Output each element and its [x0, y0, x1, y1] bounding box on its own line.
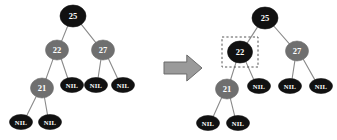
node-label: NIL: [117, 82, 130, 89]
node-label: 27: [99, 45, 108, 55]
tree-edge: [247, 26, 258, 43]
tree-node-nil: NIL: [197, 116, 220, 131]
node-label: 21: [223, 84, 232, 94]
tree-node-21: 21: [31, 78, 54, 98]
tree-edge: [292, 60, 295, 79]
tree-node-nil: NIL: [85, 78, 108, 93]
tree-edge: [230, 98, 234, 116]
tree-edge: [61, 59, 68, 79]
tree-node-25: 25: [60, 5, 86, 27]
tree-node-nil: NIL: [39, 115, 62, 130]
tree-node-22: 22: [228, 41, 253, 63]
tree-edge: [46, 59, 53, 79]
tree-edge: [231, 62, 237, 80]
tree-node-nil: NIL: [248, 79, 271, 94]
node-label: 22: [236, 47, 245, 57]
node-label: 22: [53, 45, 62, 55]
tree-edge: [213, 97, 222, 116]
tree-node-nil: NIL: [10, 115, 33, 130]
transform-arrow: [164, 55, 202, 81]
node-label: 27: [293, 46, 302, 56]
tree-node-nil: NIL: [279, 79, 302, 94]
tree-node-25: 25: [252, 7, 278, 29]
tree-node-21: 21: [216, 79, 239, 99]
tree-node-22: 22: [46, 40, 69, 60]
node-label: NIL: [232, 120, 245, 127]
node-label: NIL: [15, 119, 28, 126]
tree-node-nil: NIL: [310, 79, 333, 94]
node-label: 25: [69, 11, 78, 21]
tree-edge: [44, 97, 47, 115]
left-tree-edges: [27, 24, 118, 116]
tree-node-nil: NIL: [112, 78, 135, 93]
diagram-canvas: 25222721NILNILNILNILNIL 25222721NILNILNI…: [0, 0, 337, 140]
tree-edge: [98, 59, 101, 78]
tree-diagram-figure: 25222721NILNILNILNILNIL 25222721NILNILNI…: [0, 0, 337, 140]
right-tree-nodes: 25222721NILNILNILNILNIL: [197, 7, 333, 131]
tree-edge: [27, 96, 37, 116]
node-label: 25: [261, 13, 270, 23]
tree-node-nil: NIL: [61, 78, 84, 93]
node-label: NIL: [315, 83, 328, 90]
tree-edge: [246, 61, 254, 80]
tree-edge: [303, 59, 315, 80]
node-label: NIL: [66, 82, 79, 89]
tree-edge: [62, 25, 68, 41]
node-label: NIL: [253, 83, 266, 90]
right-tree-edges: [213, 26, 315, 117]
tree-edge: [108, 58, 118, 79]
node-label: NIL: [90, 82, 103, 89]
tree-edge: [273, 26, 289, 45]
node-label: NIL: [202, 120, 215, 127]
node-label: 21: [38, 83, 47, 93]
tree-node-nil: NIL: [227, 116, 250, 131]
arrow-layer: [164, 55, 202, 81]
node-label: NIL: [284, 83, 297, 90]
left-tree-nodes: 25222721NILNILNILNILNIL: [10, 5, 135, 130]
tree-node-27: 27: [286, 41, 309, 61]
tree-node-27: 27: [92, 40, 115, 60]
node-label: NIL: [44, 119, 57, 126]
tree-edge: [81, 24, 96, 43]
